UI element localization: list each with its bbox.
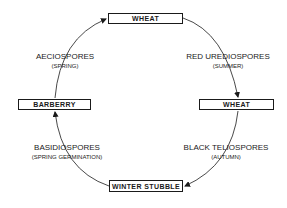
- edge-label-aeciospores: AECIOSPORES (SPRING): [30, 53, 100, 69]
- node-label: WINTER STUBBLE: [112, 183, 180, 190]
- node-wheat-right: WHEAT: [199, 99, 274, 110]
- spore-name: BASIDIOSPORES: [22, 144, 112, 152]
- edge-label-urediospores: RED UREDIOSPORES (SUMMER): [178, 53, 278, 69]
- node-label: BARBERRY: [33, 101, 76, 108]
- season: (AUTUMN): [176, 154, 276, 160]
- edge-label-basidiospores: BASIDIOSPORES (SPRING GERMINATION): [22, 144, 112, 160]
- wheat-rust-life-cycle-diagram: WHEAT WHEAT BARBERRY WINTER STUBBLE AECI…: [0, 0, 287, 208]
- node-winter-stubble: WINTER STUBBLE: [109, 180, 183, 192]
- node-label: WHEAT: [223, 101, 250, 108]
- node-barberry: BARBERRY: [18, 99, 91, 110]
- node-wheat-top: WHEAT: [108, 13, 183, 24]
- season: (SPRING): [30, 63, 100, 69]
- season: (SUMMER): [178, 63, 278, 69]
- spore-name: BLACK TELIOSPORES: [176, 144, 276, 152]
- node-label: WHEAT: [132, 15, 159, 22]
- spore-name: AECIOSPORES: [30, 53, 100, 61]
- spore-name: RED UREDIOSPORES: [178, 53, 278, 61]
- edge-label-teliospores: BLACK TELIOSPORES (AUTUMN): [176, 144, 276, 160]
- season: (SPRING GERMINATION): [22, 154, 112, 160]
